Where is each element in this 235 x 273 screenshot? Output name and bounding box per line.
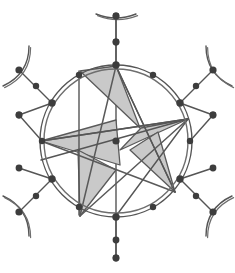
spoke-mid-node-n4: [193, 193, 199, 199]
ring-node-n5: [150, 204, 156, 210]
ring-node-n4: [176, 175, 183, 182]
ring-node-n6: [112, 213, 119, 220]
side-node-s-left-lower: [16, 165, 23, 172]
side-node-s-right-upper: [210, 112, 217, 119]
figure-root: [0, 0, 235, 273]
axis-node-2: [113, 237, 120, 244]
ring-node-n7: [76, 204, 82, 210]
axis-node-3: [113, 255, 120, 262]
spoke-end-node-n2: [209, 66, 216, 73]
axis-node-1: [113, 13, 120, 20]
ring-node-n11: [76, 72, 82, 78]
spoke-mid-node-n10: [33, 83, 39, 89]
ring-node-n2: [176, 99, 183, 106]
arc-upper-right-outer: [206, 46, 232, 86]
spoke-end-node-n4: [209, 208, 216, 215]
spoke-end-node-n8: [15, 208, 22, 215]
spoke-end-node-n10: [15, 66, 22, 73]
spoke-mid-node-n8: [33, 193, 39, 199]
spoke-line-from-n3: [190, 115, 213, 141]
ring-node-n10: [48, 99, 55, 106]
side-node-s-right-lower: [210, 165, 217, 172]
arc-lower-right-outer: [206, 196, 232, 236]
structure-diagram-svg: [0, 0, 235, 273]
spoke-line-from-n9: [19, 115, 42, 141]
ring-node-n0: [112, 61, 119, 68]
corner-arcs-layer: [3, 14, 234, 238]
center-node: [112, 137, 119, 144]
spoke-mid-node-n2: [193, 83, 199, 89]
ring-node-n1: [150, 72, 156, 78]
axis-node-0: [113, 39, 120, 46]
ring-node-n3: [187, 138, 193, 144]
side-node-s-left-upper: [16, 112, 23, 119]
ring-node-n9: [39, 138, 45, 144]
ring-node-n8: [48, 175, 55, 182]
